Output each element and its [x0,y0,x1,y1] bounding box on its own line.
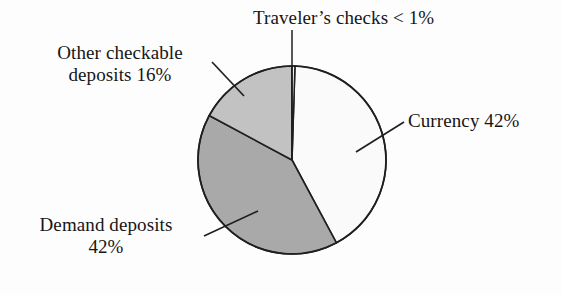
slice-label-other-checkable-deposits-line1: Other checkable [27,42,213,64]
slice-label-currency-line1: Currency 42% [408,110,519,132]
slice-label-other-checkable-deposits-line2: deposits 16% [27,64,213,86]
slice-label-demand-deposits-line1: Demand deposits [10,214,202,236]
slice-label-demand-deposits-line2: 42% [10,236,202,258]
slice-label-travelers-checks: Traveler’s checks < 1% [253,7,434,29]
slice-label-other-checkable-deposits: Other checkable deposits 16% [27,42,213,87]
slice-label-demand-deposits: Demand deposits 42% [10,214,202,259]
slice-label-currency: Currency 42% [408,110,519,132]
slice-label-travelers-checks-line1: Traveler’s checks < 1% [253,7,434,29]
pie-chart-figure: Traveler’s checks < 1% Other checkable d… [0,0,561,295]
